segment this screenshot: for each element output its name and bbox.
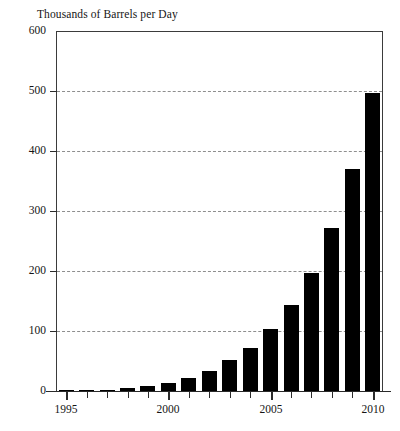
bar-2010 <box>365 93 380 391</box>
x-tick-mark-2004 <box>250 392 251 398</box>
x-tick-mark-2002 <box>209 392 210 398</box>
x-tick-mark-2001 <box>189 392 190 398</box>
bar-2008 <box>324 228 339 391</box>
x-tick-mark-1997 <box>107 392 108 398</box>
x-tick-label: 1995 <box>41 403 91 415</box>
x-tick-label: 2005 <box>246 403 296 415</box>
bar-2003 <box>222 360 237 391</box>
bar-1995 <box>59 390 74 391</box>
x-tick-label: 2000 <box>143 403 193 415</box>
bar-series <box>0 0 400 391</box>
bar-2007 <box>304 273 319 391</box>
bar-2000 <box>161 383 176 391</box>
x-tick-mark-2005 <box>271 392 273 400</box>
bar-1999 <box>140 386 155 391</box>
bar-1998 <box>120 388 135 391</box>
bar-2006 <box>284 305 299 391</box>
chart-figure: Thousands of Barrels per Day 01002003004… <box>0 0 400 431</box>
x-tick-mark-2000 <box>168 392 170 400</box>
x-tick-mark-2008 <box>332 392 333 398</box>
x-tick-mark-2009 <box>352 392 353 398</box>
x-tick-label: 2010 <box>348 403 398 415</box>
bar-2005 <box>263 329 278 391</box>
x-tick-mark-1995 <box>66 392 68 400</box>
x-tick-mark-1998 <box>128 392 129 398</box>
bar-2004 <box>243 348 258 391</box>
bar-2009 <box>345 169 360 391</box>
x-tick-mark-2003 <box>230 392 231 398</box>
x-axis-line <box>46 391 391 392</box>
x-tick-mark-1996 <box>87 392 88 398</box>
x-tick-mark-1999 <box>148 392 149 398</box>
x-tick-mark-2007 <box>311 392 312 398</box>
bar-2002 <box>202 371 217 391</box>
bar-1996 <box>79 390 94 391</box>
bar-1997 <box>100 390 115 391</box>
x-tick-mark-2006 <box>291 392 292 398</box>
x-tick-mark-2010 <box>373 392 375 400</box>
bar-2001 <box>181 378 196 391</box>
